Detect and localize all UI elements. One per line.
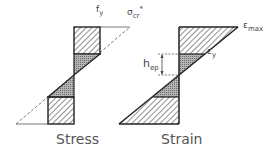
stress-diagram [16, 27, 130, 124]
emax-subscript: max [248, 25, 263, 33]
sigma-superscript: * [139, 5, 143, 13]
strain-diagram [119, 27, 238, 124]
hep-symbol: h [143, 57, 150, 70]
hep-arrow-down-icon [161, 71, 164, 75]
hep-arrow-up-icon [161, 54, 164, 58]
ey-label: εy [207, 46, 216, 59]
upper-plastic-stress-block [74, 27, 100, 54]
upper-elastic-stress-triangle [74, 54, 100, 75]
lower-elastic-stress-triangle [48, 75, 74, 97]
stress-strain-diagram [0, 0, 276, 151]
lower-plastic-strain-zone [119, 97, 179, 124]
emax-label: εmax [243, 20, 263, 33]
lower-plastic-stress-block [48, 97, 74, 124]
ey-subscript: y [212, 51, 216, 59]
hep-label: hep [143, 57, 159, 72]
fy-subscript: y [99, 9, 103, 17]
hep-subscript: ep [150, 64, 159, 72]
stress-caption: Stress [56, 131, 99, 147]
sigma-cr-label: σcr* [127, 5, 143, 20]
fy-label: fy [96, 4, 103, 17]
strain-caption: Strain [161, 131, 202, 147]
